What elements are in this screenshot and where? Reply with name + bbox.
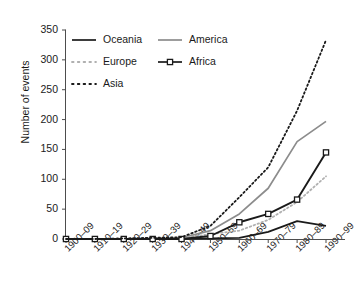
legend-label-asia: Asia [103,77,123,89]
legend-label-europe: Europe [103,55,137,67]
legend-label-america: America [189,33,228,45]
series-marker-africa [208,233,213,238]
series-line-africa [66,152,326,239]
legend-label-africa: Africa [189,55,216,67]
series-marker-africa [237,220,242,225]
series-marker-africa [295,197,300,202]
series-line-america [66,121,326,239]
series-line-europe [66,176,326,239]
series-marker-africa [323,150,328,155]
series-line-asia [66,40,326,239]
legend-label-oceania: Oceania [103,33,142,45]
legend-marker-africa [167,59,172,64]
series-marker-africa [266,211,271,216]
